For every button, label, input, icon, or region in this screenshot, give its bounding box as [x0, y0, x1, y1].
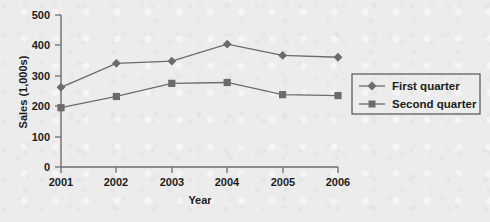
- y-tick-label-100: 100: [32, 131, 50, 143]
- data-point: [57, 104, 64, 111]
- x-axis: 2001 2002 2003 2004 2005 2006 Year: [49, 167, 350, 206]
- x-tick-label-2003: 2003: [160, 176, 184, 188]
- y-tick-label-300: 300: [32, 70, 50, 82]
- x-tick-label-2001: 2001: [49, 176, 73, 188]
- data-point: [278, 51, 287, 60]
- data-point: [112, 59, 121, 68]
- series-second-quarter-line: [61, 82, 338, 107]
- legend: First quarter Second quarter: [352, 74, 480, 114]
- y-tick-label-400: 400: [32, 39, 50, 51]
- data-point: [279, 91, 286, 98]
- data-point: [334, 53, 343, 62]
- x-axis-title: Year: [188, 194, 212, 206]
- y-tick-label-0: 0: [44, 161, 50, 173]
- series-second-quarter: [57, 79, 341, 111]
- x-tick-label-2006: 2006: [326, 176, 350, 188]
- x-tick-label-2004: 2004: [215, 176, 240, 188]
- y-axis-title: Sales (1,000s): [17, 55, 29, 128]
- data-point: [57, 83, 66, 92]
- data-point: [224, 79, 231, 86]
- x-tick-label-2002: 2002: [104, 176, 128, 188]
- y-axis: 500 400 300 200 100 0 Sales (1,000s): [17, 9, 61, 173]
- line-chart-plot: 500 400 300 200 100 0 Sales (1,000s) 200…: [0, 0, 490, 222]
- legend-label-second-quarter: Second quarter: [392, 98, 477, 110]
- series-first-quarter-markers: [57, 40, 343, 92]
- data-point: [167, 57, 176, 66]
- diamond-marker-icon: [368, 82, 377, 91]
- series-first-quarter-line: [61, 44, 338, 87]
- data-point: [223, 40, 232, 49]
- legend-entry-first-quarter[interactable]: First quarter: [359, 80, 460, 92]
- y-tick-label-200: 200: [32, 100, 50, 112]
- series-first-quarter: [57, 40, 343, 92]
- data-point: [334, 92, 341, 99]
- data-point: [113, 93, 120, 100]
- y-tick-label-500: 500: [32, 9, 50, 21]
- legend-entry-second-quarter[interactable]: Second quarter: [359, 98, 477, 110]
- square-marker-icon: [369, 101, 376, 108]
- data-point: [168, 80, 175, 87]
- x-tick-label-2005: 2005: [271, 176, 295, 188]
- legend-label-first-quarter: First quarter: [392, 80, 460, 92]
- chart-figure: 500 400 300 200 100 0 Sales (1,000s) 200…: [0, 0, 490, 222]
